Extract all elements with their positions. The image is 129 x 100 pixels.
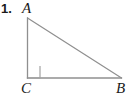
right-angle-marker-icon <box>28 66 40 78</box>
vertex-label-c: C <box>21 81 31 96</box>
vertex-label-b: B <box>116 81 125 96</box>
vertex-label-a: A <box>22 1 31 16</box>
side-ab-hypotenuse <box>28 18 122 78</box>
triangle-diagram <box>0 0 129 100</box>
triangle-shape <box>28 18 122 78</box>
geometry-figure: 1. A C B <box>0 0 129 100</box>
